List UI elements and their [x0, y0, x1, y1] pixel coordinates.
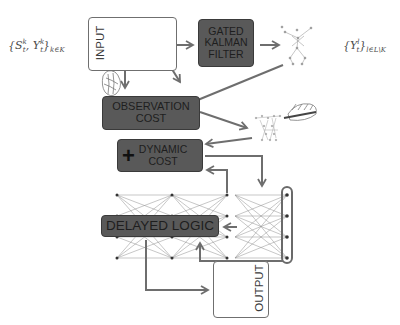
arrow-bracket-bottom-to-delayed — [200, 243, 283, 261]
finger-template-icon — [102, 71, 120, 96]
unobserved-set-label: {Ylt}l∈L\K — [343, 38, 386, 54]
observation-label-line-2: COST — [136, 113, 167, 125]
kalman-pose-skeleton-icon — [281, 26, 312, 65]
kalman-label-line-2: KALMAN — [204, 37, 247, 48]
dynamic-cost-node: + DYNAMIC COST — [117, 139, 203, 172]
kalman-label-line-3: FILTER — [208, 49, 243, 60]
output-label: OUTPUT — [253, 263, 267, 313]
dynamic-label-line-1: DYNAMIC — [139, 144, 187, 155]
arrow-skeleton-to-observation — [188, 65, 283, 104]
delayed-logic-label: DELAYED LOGIC — [106, 219, 214, 233]
current-frame-bracket — [282, 187, 292, 263]
dynamic-label-line-2: COST — [148, 156, 177, 167]
observed-set-label: {Skt, Ykt}k∈K — [8, 38, 65, 54]
arrow-observation-to-cloud — [200, 112, 247, 128]
plus-icon: + — [122, 145, 135, 167]
delayed-logic-node: DELAYED LOGIC — [101, 215, 219, 237]
arrow-trellis-to-dynamic — [207, 170, 227, 193]
dynamic-label: DYNAMIC COST — [139, 144, 187, 166]
gated-kalman-filter-node: GATED KALMAN FILTER — [198, 19, 254, 67]
candidate-pose-cloud-icon — [255, 115, 281, 141]
arrow-delayed-to-output — [146, 240, 208, 290]
input-label: INPUT — [94, 23, 108, 63]
hand-model-icon — [284, 104, 316, 121]
observation-cost-node: OBSERVATION COST — [102, 96, 200, 130]
arrow-cloud-to-dynamic — [206, 138, 252, 144]
